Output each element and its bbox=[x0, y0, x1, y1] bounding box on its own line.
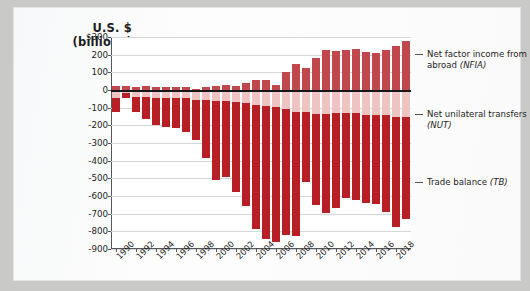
bar-column[interactable] bbox=[212, 37, 219, 249]
bar-segment-tb bbox=[332, 113, 339, 208]
bar-column[interactable] bbox=[312, 37, 319, 249]
bar-segment-tb bbox=[342, 113, 349, 198]
bar-column[interactable] bbox=[112, 37, 119, 249]
bar-segment-nut bbox=[262, 90, 269, 106]
bar-segment-nut bbox=[252, 90, 259, 105]
y-axis-tick-label: -700 bbox=[62, 209, 108, 219]
bar-segment-nut bbox=[242, 90, 249, 103]
legend-item[interactable]: Net factor income from abroad (NFIA) bbox=[415, 49, 530, 70]
legend-abbreviation: (TB) bbox=[490, 177, 508, 187]
y-axis-tick-mark bbox=[108, 249, 112, 250]
legend-label: Net factor income from abroad (NFIA) bbox=[427, 49, 530, 70]
y-axis-tick-label: -500 bbox=[62, 173, 108, 183]
bar-segment-tb bbox=[112, 98, 119, 112]
bar-column[interactable] bbox=[252, 37, 259, 249]
y-axis-tick-label: 100 bbox=[62, 67, 108, 77]
bar-segment-tb bbox=[232, 102, 239, 191]
bar-column[interactable] bbox=[332, 37, 339, 249]
bar-segment-nfia bbox=[392, 46, 399, 90]
bar-segment-nut bbox=[282, 90, 289, 109]
legend-label: Net unilateral transfers (NUT) bbox=[427, 109, 530, 130]
bar-column[interactable] bbox=[162, 37, 169, 249]
legend-item[interactable]: Net unilateral transfers (NUT) bbox=[415, 109, 530, 130]
y-axis-tick-label: -200 bbox=[62, 120, 108, 130]
y-axis-tick-label: -100 bbox=[62, 103, 108, 113]
bar-segment-nut bbox=[292, 90, 299, 112]
legend-dash-icon bbox=[415, 182, 423, 183]
screenshot-frame: U.S. $ (billions) $3002001000-100-200-30… bbox=[0, 0, 530, 291]
bar-segment-nfia bbox=[332, 51, 339, 90]
bar-segment-nfia bbox=[362, 52, 369, 90]
bar-column[interactable] bbox=[362, 37, 369, 249]
bar-segment-nfia bbox=[352, 49, 359, 90]
bar-column[interactable] bbox=[122, 37, 129, 249]
legend-label: Trade balance (TB) bbox=[427, 177, 530, 188]
bar-segment-nut bbox=[222, 90, 229, 101]
y-axis-tick-label: 200 bbox=[62, 50, 108, 60]
y-axis-tick-label: 0 bbox=[62, 85, 108, 95]
bar-segment-tb bbox=[272, 107, 279, 242]
bar-column[interactable] bbox=[192, 37, 199, 249]
bar-column[interactable] bbox=[302, 37, 309, 249]
bar-segment-tb bbox=[142, 97, 149, 118]
bar-segment-nut bbox=[332, 90, 339, 113]
bar-segment-tb bbox=[362, 115, 369, 203]
bar-segment-nfia bbox=[292, 64, 299, 90]
zero-line bbox=[111, 90, 411, 92]
plot-area: $3002001000-100-200-300-400-500-600-700-… bbox=[111, 37, 411, 249]
bar-column[interactable] bbox=[242, 37, 249, 249]
bar-segment-nfia bbox=[312, 58, 319, 90]
y-axis-tick-label: -300 bbox=[62, 138, 108, 148]
bar-column[interactable] bbox=[382, 37, 389, 249]
bar-segment-nut bbox=[382, 90, 389, 115]
bar-column[interactable] bbox=[172, 37, 179, 249]
y-axis-tick-label: -600 bbox=[62, 191, 108, 201]
bar-column[interactable] bbox=[142, 37, 149, 249]
bar-segment-nfia bbox=[372, 53, 379, 90]
y-axis-tick-label: -900 bbox=[62, 244, 108, 254]
bar-column[interactable] bbox=[322, 37, 329, 249]
bar-segment-tb bbox=[252, 105, 259, 229]
bar-segment-nut bbox=[272, 90, 279, 107]
bar-segment-tb bbox=[172, 98, 179, 128]
bar-segment-tb bbox=[132, 97, 139, 112]
bar-column[interactable] bbox=[262, 37, 269, 249]
bar-column[interactable] bbox=[372, 37, 379, 249]
bar-column[interactable] bbox=[152, 37, 159, 249]
bar-column[interactable] bbox=[392, 37, 399, 249]
bar-segment-nut bbox=[302, 90, 309, 112]
bar-segment-nut bbox=[342, 90, 349, 113]
bar-column[interactable] bbox=[272, 37, 279, 249]
bar-segment-tb bbox=[202, 100, 209, 158]
bar-segment-tb bbox=[182, 98, 189, 132]
bar-segment-nfia bbox=[242, 83, 249, 90]
bar-column[interactable] bbox=[352, 37, 359, 249]
bar-segment-nfia bbox=[382, 50, 389, 90]
bar-segment-tb bbox=[382, 115, 389, 212]
bar-segment-nut bbox=[362, 90, 369, 115]
bar-column[interactable] bbox=[232, 37, 239, 249]
bar-segment-tb bbox=[282, 109, 289, 234]
y-axis-tick-label: $300 bbox=[62, 32, 108, 42]
bar-column[interactable] bbox=[402, 37, 409, 249]
bar-column[interactable] bbox=[202, 37, 209, 249]
bar-column[interactable] bbox=[132, 37, 139, 249]
legend-item[interactable]: Trade balance (TB) bbox=[415, 177, 530, 188]
bar-segment-nut bbox=[232, 90, 239, 102]
legend-dash-icon bbox=[415, 54, 423, 55]
bar-column[interactable] bbox=[182, 37, 189, 249]
bar-series-group bbox=[111, 37, 411, 249]
bar-segment-nfia bbox=[262, 80, 269, 90]
bar-segment-tb bbox=[262, 106, 269, 239]
bar-column[interactable] bbox=[342, 37, 349, 249]
bar-column[interactable] bbox=[222, 37, 229, 249]
bar-column[interactable] bbox=[282, 37, 289, 249]
bar-segment-tb bbox=[302, 112, 309, 182]
y-axis-tick-label: -800 bbox=[62, 226, 108, 236]
bar-segment-nfia bbox=[302, 68, 309, 90]
bar-segment-tb bbox=[122, 93, 129, 98]
figure-page: U.S. $ (billions) $3002001000-100-200-30… bbox=[14, 8, 520, 280]
bar-segment-nut bbox=[392, 90, 399, 117]
bar-segment-nfia bbox=[342, 50, 349, 90]
bar-column[interactable] bbox=[292, 37, 299, 249]
